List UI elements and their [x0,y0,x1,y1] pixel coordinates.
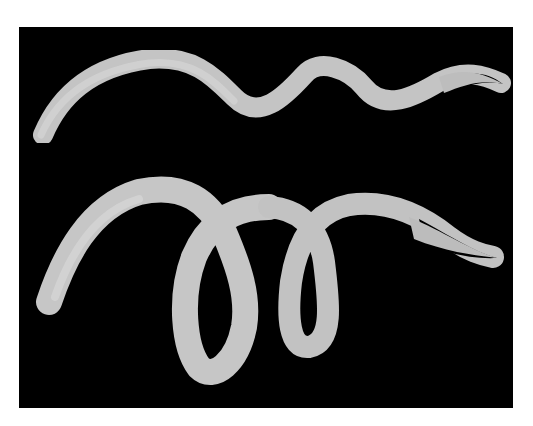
worms-illustration [19,27,513,408]
image-frame [19,27,513,408]
lower-worm [49,189,497,372]
upper-worm [41,59,503,135]
